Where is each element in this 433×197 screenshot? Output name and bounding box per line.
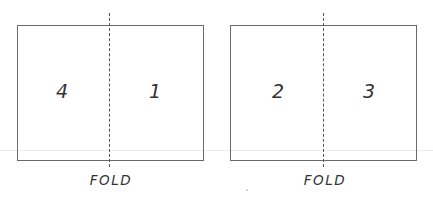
page-number-2: 2 (272, 80, 284, 102)
right-fold-line (323, 13, 324, 167)
right-fold-label: FOLD (304, 172, 346, 188)
left-fold-line (109, 13, 110, 167)
left-sheet (17, 25, 204, 161)
page-number-3: 3 (363, 80, 375, 102)
page-number-4: 4 (56, 80, 68, 102)
left-fold-label: FOLD (90, 172, 132, 188)
scan-speck (246, 189, 248, 191)
page-number-1: 1 (149, 80, 161, 102)
